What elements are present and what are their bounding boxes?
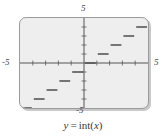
caption-operator: = [68, 119, 78, 131]
x-axis-min-label: -5 [2, 58, 10, 67]
step-function-plot [20, 18, 148, 108]
figure-caption: y=int(x) [0, 119, 166, 132]
caption-function-name: int [79, 119, 91, 131]
graph-figure: 5 -5 5 -5 y=int(x) [0, 0, 166, 140]
caption-close-paren: ) [99, 119, 103, 131]
y-axis-max-label: 5 [81, 4, 86, 13]
calculator-screen [19, 17, 151, 111]
screen-frame [19, 17, 149, 109]
y-axis-min-label: -5 [76, 106, 84, 115]
x-axis-max-label: 5 [154, 58, 159, 67]
